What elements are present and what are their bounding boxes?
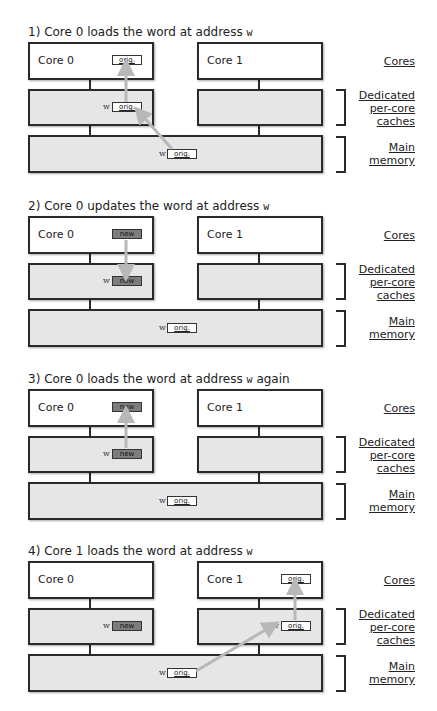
legend-cores: Cores	[384, 574, 415, 587]
memory-bracket	[336, 655, 346, 692]
panel-step-2: 2) Core 0 updates the word at address w …	[0, 199, 437, 372]
panel-step-1: 1) Core 0 loads the word at address w Co…	[0, 25, 437, 198]
legend-caches: Dedicatedper-corecaches	[359, 608, 415, 647]
legend-memory: Mainmemory	[369, 660, 415, 686]
legend-caches: Dedicatedper-corecaches	[359, 263, 415, 302]
legend-cores: Cores	[384, 55, 415, 68]
panel-step-3: 3) Core 0 loads the word at address w ag…	[0, 372, 437, 545]
legend-memory: Mainmemory	[369, 488, 415, 514]
caches-bracket	[336, 436, 346, 473]
legend-caches: Dedicatedper-corecaches	[359, 89, 415, 128]
legend-cores: Cores	[384, 402, 415, 415]
panel-step-4: 4) Core 1 loads the word at address w Co…	[0, 544, 437, 711]
memory-bracket	[336, 310, 346, 347]
memory-bracket	[336, 136, 346, 173]
legend-cores: Cores	[384, 229, 415, 242]
caches-bracket	[336, 263, 346, 300]
legend-caches: Dedicatedper-corecaches	[359, 436, 415, 475]
memory-bracket	[336, 483, 346, 520]
caches-bracket	[336, 89, 346, 126]
legend-memory: Mainmemory	[369, 315, 415, 341]
legend-memory: Mainmemory	[369, 141, 415, 167]
caches-bracket	[336, 608, 346, 645]
